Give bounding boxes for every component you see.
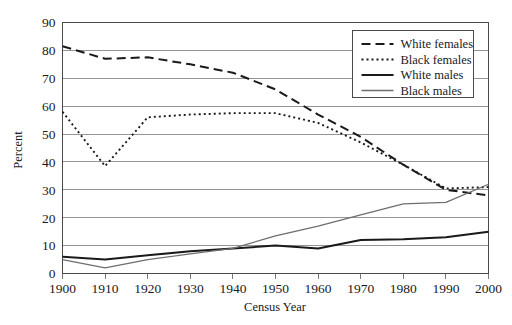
y-tick-label-10: 10 bbox=[42, 238, 56, 253]
x-tick-label-1910: 1910 bbox=[92, 281, 119, 296]
y-tick-label-30: 30 bbox=[42, 183, 56, 198]
x-tick-label-1990: 1990 bbox=[432, 281, 459, 296]
y-tick-label-20: 20 bbox=[42, 211, 56, 226]
x-axis-tick-labels: 1900191019201930194019501960197019801990… bbox=[49, 281, 502, 296]
x-tick-label-1940: 1940 bbox=[219, 281, 246, 296]
y-tick-label-0: 0 bbox=[49, 266, 56, 281]
y-tick-label-70: 70 bbox=[42, 71, 56, 86]
x-tick-label-1950: 1950 bbox=[262, 281, 289, 296]
chart-figure: 0102030405060708090 19001910192019301940… bbox=[0, 0, 512, 325]
x-tick-label-2000: 2000 bbox=[475, 281, 502, 296]
chart-legend: White femalesBlack femalesWhite malesBla… bbox=[353, 31, 474, 98]
x-tick-label-1960: 1960 bbox=[305, 281, 332, 296]
x-axis-title: Census Year bbox=[244, 300, 307, 314]
y-tick-label-40: 40 bbox=[42, 155, 56, 170]
series-line-black-males bbox=[63, 184, 489, 268]
x-tick-label-1900: 1900 bbox=[49, 281, 76, 296]
y-tick-label-80: 80 bbox=[42, 43, 56, 58]
legend-label-white-males: White males bbox=[401, 68, 464, 82]
legend-label-black-males: Black males bbox=[401, 84, 463, 98]
x-tick-label-1970: 1970 bbox=[347, 281, 374, 296]
axis-tickmarks bbox=[63, 274, 489, 279]
legend-label-white-females: White females bbox=[401, 37, 474, 51]
y-axis-title: Percent bbox=[11, 131, 25, 169]
x-tick-label-1930: 1930 bbox=[177, 281, 204, 296]
y-tick-label-50: 50 bbox=[42, 127, 56, 142]
y-axis-tick-labels: 0102030405060708090 bbox=[42, 15, 56, 281]
x-tick-label-1980: 1980 bbox=[390, 281, 417, 296]
x-tick-label-1920: 1920 bbox=[134, 281, 161, 296]
line-chart: 0102030405060708090 19001910192019301940… bbox=[0, 0, 512, 325]
y-tick-label-90: 90 bbox=[42, 15, 56, 30]
y-tick-label-60: 60 bbox=[42, 99, 56, 114]
legend-label-black-females: Black females bbox=[401, 53, 472, 67]
